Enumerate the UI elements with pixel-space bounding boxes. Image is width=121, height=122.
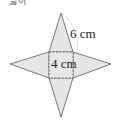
slant-label: 6 cm: [70, 26, 96, 41]
base-label: 4 cm: [51, 56, 77, 71]
pyramid-net-diagram: 6 cm 4 cm: [0, 0, 121, 122]
right-triangle: [73, 52, 111, 78]
bottom-triangle: [49, 78, 73, 117]
left-triangle: [10, 52, 49, 78]
